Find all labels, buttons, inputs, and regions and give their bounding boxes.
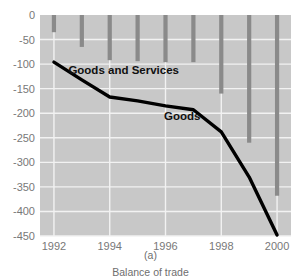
caption-title-wrap: Balance of trade bbox=[0, 262, 301, 280]
y-tick-label: -300 bbox=[13, 156, 35, 168]
bar-1992 bbox=[52, 15, 56, 32]
y-tick-label: -400 bbox=[13, 205, 35, 217]
bar-1995 bbox=[136, 15, 140, 61]
panel-label-wrap: (a) bbox=[0, 245, 301, 263]
balance-of-trade-chart: 0-50-100-150-200-250-300-350-400-450 199… bbox=[0, 0, 301, 280]
bar-1996 bbox=[163, 15, 167, 62]
y-tick-label: -50 bbox=[19, 34, 35, 46]
y-tick-label: -150 bbox=[13, 83, 35, 95]
bar-1999 bbox=[247, 15, 251, 143]
y-axis-tick-labels: 0-50-100-150-200-250-300-350-400-450 bbox=[13, 9, 35, 242]
y-tick-label: -450 bbox=[13, 230, 35, 242]
y-tick-label: 0 bbox=[29, 9, 35, 21]
annotation-label: Goods and Services bbox=[68, 64, 179, 76]
annotation-label: Goods bbox=[164, 110, 200, 122]
y-tick-label: -350 bbox=[13, 181, 35, 193]
bar-1993 bbox=[80, 15, 84, 47]
balance-of-trade-figure: 0-50-100-150-200-250-300-350-400-450 199… bbox=[0, 0, 301, 280]
y-tick-label: -100 bbox=[13, 58, 35, 70]
y-tick-label: -250 bbox=[13, 132, 35, 144]
y-tick-label: -200 bbox=[13, 107, 35, 119]
panel-label: (a) bbox=[144, 249, 157, 261]
bar-2000 bbox=[275, 15, 279, 196]
caption-title: Balance of trade bbox=[112, 266, 188, 278]
bar-1998 bbox=[219, 15, 223, 94]
bar-1994 bbox=[108, 15, 112, 60]
bar-1997 bbox=[191, 15, 195, 62]
